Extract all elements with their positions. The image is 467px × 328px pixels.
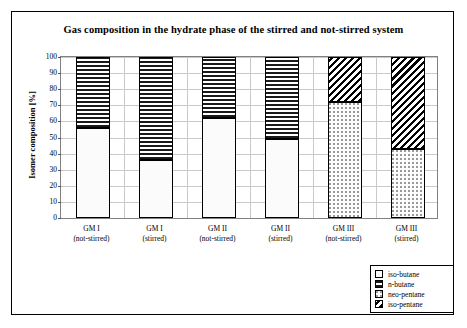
bar-segment-n-butane[interactable] — [202, 57, 236, 118]
legend-item[interactable]: n-butane — [375, 279, 449, 289]
bar-segment-iso-butane[interactable] — [202, 118, 236, 218]
gridline — [61, 57, 437, 58]
gridline — [61, 186, 437, 187]
legend-label: iso-pentane — [388, 300, 423, 309]
category-label-line2: (stirred) — [372, 234, 442, 244]
category-label-line1: GM II — [246, 224, 316, 234]
y-axis-tick-label: 40 — [50, 150, 58, 158]
category-label-line1: GM I — [120, 224, 190, 234]
legend-label: neo-pentane — [388, 290, 425, 299]
bar-segment-iso-butane[interactable] — [139, 160, 173, 218]
bar-segment-iso-butane[interactable] — [76, 128, 110, 218]
category-gridline — [124, 57, 125, 218]
category-label-line2: (not-stirred) — [309, 234, 379, 244]
legend-swatch-neo-pentane — [375, 290, 383, 298]
legend-swatch-n-butane — [375, 280, 383, 288]
chart-frame: Gas composition in the hydrate phase of … — [11, 11, 454, 315]
y-axis-tick-mark — [58, 89, 61, 90]
gridline — [61, 121, 437, 122]
chart-title: Gas composition in the hydrate phase of … — [12, 24, 455, 35]
y-axis-tick-mark — [58, 73, 61, 74]
category-label-line2: (stirred) — [246, 234, 316, 244]
gridline — [61, 202, 437, 203]
y-axis-tick-label: 0 — [53, 214, 57, 222]
chart-legend: iso-butanen-butaneneo-pentaneiso-pentane — [370, 265, 454, 313]
category-gridline — [376, 57, 377, 218]
y-axis-tick-label: 90 — [50, 69, 58, 77]
y-axis-tick-label: 50 — [50, 134, 58, 142]
y-axis-tick-label: 100 — [46, 53, 57, 61]
x-axis-category-label: GM III(stirred) — [372, 224, 442, 244]
y-axis-tick-label: 60 — [50, 118, 58, 126]
legend-label: n-butane — [388, 280, 414, 289]
category-label-line2: (not-stirred) — [57, 234, 127, 244]
legend-swatch-iso-butane — [375, 270, 383, 278]
y-axis-tick-label: 20 — [50, 182, 58, 190]
gridline — [61, 73, 437, 74]
category-label-line2: (not-stirred) — [183, 234, 253, 244]
category-gridline — [313, 57, 314, 218]
gridline — [61, 105, 437, 106]
bar-column[interactable] — [202, 57, 236, 218]
x-axis-category-label: GM I(not-stirred) — [57, 224, 127, 244]
bar-segment-iso-pentane[interactable] — [328, 57, 362, 102]
legend-item[interactable]: iso-pentane — [375, 299, 449, 309]
gridline — [61, 154, 437, 155]
legend-label: iso-butane — [388, 270, 419, 279]
y-axis-tick-label: 10 — [50, 198, 58, 206]
gridline — [61, 170, 437, 171]
y-axis-tick-label: 30 — [50, 166, 58, 174]
y-axis-tick-mark — [58, 154, 61, 155]
legend-swatch-iso-pentane — [375, 300, 383, 308]
bar-segment-iso-butane[interactable] — [265, 139, 299, 218]
legend-item[interactable]: iso-butane — [375, 269, 449, 279]
bar-segment-n-butane[interactable] — [139, 57, 173, 160]
y-axis-tick-mark — [58, 186, 61, 187]
category-gridline — [187, 57, 188, 218]
x-axis-category-label: GM I(stirred) — [120, 224, 190, 244]
y-axis-tick-mark — [58, 121, 61, 122]
category-label-line1: GM III — [372, 224, 442, 234]
plot-area: 1009080706050403020100 — [60, 56, 438, 219]
y-axis-tick-mark — [58, 218, 61, 219]
y-axis-title: Isomer composition [%] — [27, 70, 37, 200]
legend-item[interactable]: neo-pentane — [375, 289, 449, 299]
bar-segment-neo-pentane[interactable] — [391, 149, 425, 218]
bar-segment-n-butane[interactable] — [265, 57, 299, 139]
bar-column[interactable] — [328, 57, 362, 218]
y-axis-tick-mark — [58, 138, 61, 139]
y-axis-tick-label: 80 — [50, 85, 58, 93]
bar-column[interactable] — [265, 57, 299, 218]
y-axis-tick-label: 70 — [50, 102, 58, 110]
bar-column[interactable] — [391, 57, 425, 218]
x-axis-category-label: GM II(not-stirred) — [183, 224, 253, 244]
bar-segment-iso-pentane[interactable] — [391, 57, 425, 149]
x-axis-category-label: GM III(not-stirred) — [309, 224, 379, 244]
x-axis-category-label: GM II(stirred) — [246, 224, 316, 244]
y-axis-tick-mark — [58, 202, 61, 203]
category-label-line1: GM III — [309, 224, 379, 234]
y-axis-tick-mark — [58, 170, 61, 171]
gridline — [61, 138, 437, 139]
bar-segment-neo-pentane[interactable] — [328, 102, 362, 218]
category-label-line1: GM I — [57, 224, 127, 234]
category-label-line2: (stirred) — [120, 234, 190, 244]
y-axis-tick-mark — [58, 105, 61, 106]
bar-column[interactable] — [139, 57, 173, 218]
bar-column[interactable] — [76, 57, 110, 218]
bar-segment-n-butane[interactable] — [76, 57, 110, 128]
category-label-line1: GM II — [183, 224, 253, 234]
gridline — [61, 89, 437, 90]
y-axis-tick-mark — [58, 57, 61, 58]
category-gridline — [250, 57, 251, 218]
